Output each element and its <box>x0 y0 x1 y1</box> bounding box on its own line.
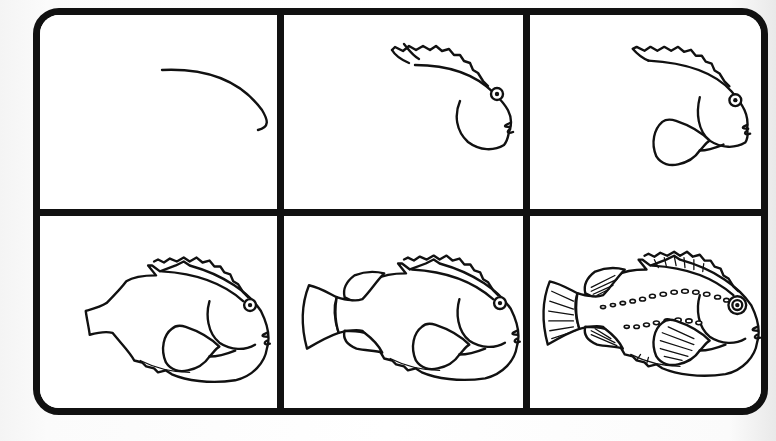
step-panel-6: Step 6 <box>530 216 761 408</box>
step-panel-4: Step 4 <box>40 216 277 408</box>
step-grid: Step 1 Step 2 St <box>40 15 761 408</box>
fish-step-1-drawing <box>40 15 277 209</box>
fish-step-3-drawing <box>530 15 761 209</box>
page-title: How to draw a fish — 6-step tutorial <box>0 0 1 1</box>
fish-step-4-drawing <box>40 216 277 408</box>
step-grid-frame: Step 1 Step 2 St <box>33 8 768 415</box>
fish-step-6-drawing <box>530 216 761 408</box>
step-panel-3: Step 3 <box>530 15 761 209</box>
row-divider <box>40 209 761 216</box>
step-panel-2: Step 2 <box>284 15 523 209</box>
fish-step-2-drawing <box>284 15 523 209</box>
step-panel-5: Step 5 <box>284 216 523 408</box>
fish-step-5-drawing <box>284 216 523 408</box>
step-panel-1: Step 1 <box>40 15 277 209</box>
tutorial-page: How to draw a fish — 6-step tutorial Ste… <box>0 0 776 441</box>
